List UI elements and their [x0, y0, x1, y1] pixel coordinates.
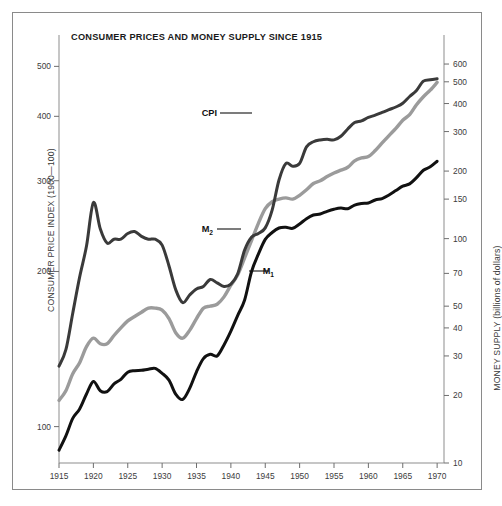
right-tick-label: 10 [453, 458, 463, 468]
x-tick-label: 1940 [222, 471, 241, 481]
cpi-annotation-label: CPI [202, 108, 217, 118]
right-tick-label: 40 [453, 323, 463, 333]
right-tick-label: 200 [453, 166, 467, 176]
right-tick-label: 50 [453, 301, 463, 311]
x-tick-label: 1935 [187, 471, 206, 481]
x-tick-label: 1930 [153, 471, 172, 481]
left-tick-label: 400 [37, 111, 51, 121]
x-tick-label: 1925 [118, 471, 137, 481]
x-tick-label: 1915 [50, 471, 69, 481]
right-tick-label: 150 [453, 194, 467, 204]
right-tick-label: 500 [453, 77, 467, 87]
left-tick-label: 100 [37, 422, 51, 432]
x-tick-label: 1920 [84, 471, 103, 481]
x-tick-label: 1945 [256, 471, 275, 481]
right-tick-label: 600 [453, 59, 467, 69]
x-tick-label: 1955 [325, 471, 344, 481]
x-tick-label: 1965 [393, 471, 412, 481]
left-axis-title: CONSUMER PRICE INDEX (1900—100) [46, 130, 56, 330]
m2-annotation-label: M2 [202, 224, 214, 236]
series-line-m1 [59, 161, 437, 450]
m1-annotation-label: M1 [263, 266, 275, 278]
right-tick-label: 100 [453, 234, 467, 244]
right-tick-label: 20 [453, 390, 463, 400]
figure-frame: CONSUMER PRICES AND MONEY SUPPLY SINCE 1… [12, 12, 482, 490]
x-tick-label: 1960 [359, 471, 378, 481]
chart-title: CONSUMER PRICES AND MONEY SUPPLY SINCE 1… [71, 32, 322, 42]
series-line-cpi [59, 79, 437, 366]
x-tick-label: 1970 [428, 471, 447, 481]
right-tick-label: 30 [453, 351, 463, 361]
x-tick-label: 1950 [290, 471, 309, 481]
right-tick-label: 300 [453, 127, 467, 137]
right-axis-title: MONEY SUPPLY (billions of dollars) [492, 203, 502, 433]
left-tick-label: 500 [37, 61, 51, 71]
plot-area: 1002003004005001020304050701001502003004… [13, 13, 481, 489]
right-tick-label: 70 [453, 268, 463, 278]
right-tick-label: 400 [453, 99, 467, 109]
